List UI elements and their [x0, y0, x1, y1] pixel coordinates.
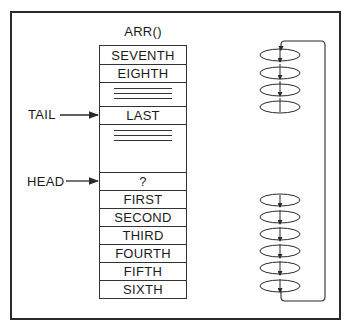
ring-bottom-coils-icon	[260, 194, 300, 292]
ring-top-coils-icon	[260, 48, 300, 113]
diagram-graphics	[0, 0, 354, 334]
